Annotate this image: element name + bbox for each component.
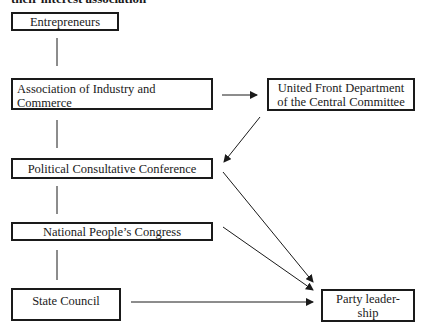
node-party-line-1: Party leader- [336,292,400,306]
node-npc: National People’s Congress [11,222,213,241]
node-united-front-line-1: United Front Department [278,81,404,95]
node-entrepreneurs-label: Entrepreneurs [30,15,100,29]
node-npc-label: National People’s Congress [43,225,181,239]
node-cppcc: Political Consultative Conference [11,158,213,179]
node-united-front: United Front Department of the Central C… [267,78,415,111]
node-entrepreneurs: Entrepreneurs [11,12,119,31]
node-state-council-label: State Council [32,294,100,308]
node-association-line-2: Commerce [17,96,211,110]
node-party-leadership: Party leader- ship [321,289,415,322]
node-state-council: State Council [11,288,121,321]
arrow-npc-party [223,227,313,290]
arrow-cppcc-party [223,172,313,282]
arrow-united-front-cppcc [224,117,260,162]
node-association: Association of Industry and Commerce [11,78,213,110]
node-united-front-line-2: of the Central Committee [277,95,404,109]
node-party-line-2: ship [358,306,379,320]
node-cppcc-label: Political Consultative Conference [28,162,197,176]
node-association-line-1: Association of Industry and [17,82,211,96]
